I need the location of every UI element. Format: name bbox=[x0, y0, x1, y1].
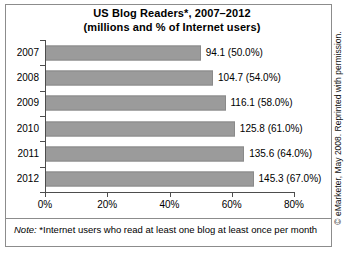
x-tick-label: 20% bbox=[87, 199, 127, 211]
y-tick bbox=[40, 141, 45, 142]
bar-rows: 200794.1 (50.0%)2008104.7 (54.0%)2009116… bbox=[9, 40, 318, 192]
note-divider bbox=[6, 218, 331, 219]
bar-value-label: 104.7 (54.0%) bbox=[218, 72, 281, 84]
y-axis-line bbox=[45, 40, 46, 192]
chart-title: US Blog Readers*, 2007–2012 bbox=[0, 6, 344, 20]
bar-row: 200794.1 (50.0%) bbox=[9, 40, 318, 65]
chart-subtitle: (millions and % of Internet users) bbox=[0, 20, 344, 34]
bar bbox=[45, 96, 226, 111]
bar-value-label: 145.3 (67.0%) bbox=[259, 173, 322, 185]
y-tick bbox=[40, 40, 45, 41]
bar-value-label: 94.1 (50.0%) bbox=[206, 47, 263, 59]
bar-row: 2011135.6 (64.0%) bbox=[9, 141, 318, 166]
bar-row: 2008104.7 (54.0%) bbox=[9, 65, 318, 90]
bar-row: 2009116.1 (58.0%) bbox=[9, 91, 318, 116]
x-tick bbox=[170, 192, 171, 197]
y-axis-label: 2010 bbox=[9, 123, 39, 135]
x-tick bbox=[232, 192, 233, 197]
source-credit: © eMarketer, May 2008. Reprinted with pe… bbox=[331, 0, 344, 255]
x-tick bbox=[107, 192, 108, 197]
x-tick-label: 0% bbox=[25, 199, 65, 211]
chart-title-block: US Blog Readers*, 2007–2012 (millions an… bbox=[0, 6, 344, 34]
y-axis-label: 2007 bbox=[9, 47, 39, 59]
note-text: *Internet users who read at least one bl… bbox=[39, 224, 317, 235]
x-tick-label: 60% bbox=[212, 199, 252, 211]
note-prefix: Note: bbox=[14, 224, 37, 235]
y-axis-label: 2012 bbox=[9, 173, 39, 185]
x-tick bbox=[45, 192, 46, 197]
bar bbox=[45, 121, 235, 136]
bar bbox=[45, 146, 244, 161]
x-tick-label: 80% bbox=[274, 199, 314, 211]
plot-area: 200794.1 (50.0%)2008104.7 (54.0%)2009116… bbox=[9, 40, 318, 205]
chart-note: Note: *Internet users who read at least … bbox=[14, 224, 317, 236]
bar bbox=[45, 172, 254, 187]
bar bbox=[45, 45, 201, 60]
chart-figure: US Blog Readers*, 2007–2012 (millions an… bbox=[0, 0, 344, 255]
y-tick bbox=[40, 65, 45, 66]
y-axis-label: 2011 bbox=[9, 148, 39, 160]
y-tick bbox=[40, 167, 45, 168]
bar bbox=[45, 70, 213, 85]
x-tick-label: 40% bbox=[150, 199, 190, 211]
y-axis-label: 2008 bbox=[9, 72, 39, 84]
bar-value-label: 135.6 (64.0%) bbox=[249, 148, 312, 160]
bar-value-label: 116.1 (58.0%) bbox=[231, 97, 293, 109]
y-axis-label: 2009 bbox=[9, 97, 39, 109]
y-tick bbox=[40, 116, 45, 117]
bar-row: 2010125.8 (61.0%) bbox=[9, 116, 318, 141]
x-tick bbox=[294, 192, 295, 197]
bar-value-label: 125.8 (61.0%) bbox=[240, 123, 303, 135]
bar-row: 2012145.3 (67.0%) bbox=[9, 167, 318, 192]
source-credit-text: © eMarketer, May 2008. Reprinted with pe… bbox=[333, 31, 343, 224]
y-tick bbox=[40, 91, 45, 92]
